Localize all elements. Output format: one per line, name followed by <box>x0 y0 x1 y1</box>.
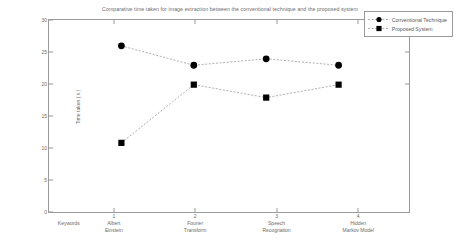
x-category-text-2-line1: Fourier <box>187 220 203 226</box>
x-category-text-2-line2: Transform <box>184 227 207 233</box>
x-category-text-3-line2: Recognation <box>262 227 290 233</box>
y-tick-label-15: 15 <box>41 113 47 119</box>
data-point-conventional-1 <box>118 42 125 49</box>
y-tick-label-25: 25 <box>41 49 47 55</box>
chart-legend: Conventional Technique Proposed System <box>364 11 453 37</box>
data-point-conventional-2 <box>190 62 197 69</box>
legend-marker-square-icon <box>368 24 390 33</box>
data-point-proposed-3 <box>263 95 269 101</box>
series-line-conventional-technique <box>121 46 338 65</box>
plot-area: Time taken ( s ) 0 5 10 15 20 25 30 1 2 … <box>48 19 410 213</box>
x-category-label-speech-recognation: Speech Recognation <box>262 220 290 234</box>
x-category-text-1-line1: Albert <box>107 220 120 226</box>
legend-label-proposed-system: Proposed System <box>392 26 433 32</box>
legend-label-conventional-technique: Conventional Technique <box>392 17 447 23</box>
series-line-proposed-system <box>121 85 338 143</box>
chart-title: Comparative time taken for image extract… <box>80 6 380 12</box>
chart-figure: Comparative time taken for image extract… <box>0 0 457 247</box>
y-tick-label-30: 30 <box>41 17 47 23</box>
x-category-text-1-line2: Einstein <box>105 227 123 233</box>
y-tick-label-0: 0 <box>44 209 47 215</box>
data-point-proposed-1 <box>118 140 124 146</box>
y-tick-label-10: 10 <box>41 145 47 151</box>
legend-item-conventional-technique: Conventional Technique <box>368 15 447 24</box>
data-point-conventional-4 <box>335 62 342 69</box>
series-markers-conventional-technique <box>118 42 342 68</box>
data-point-proposed-2 <box>191 82 197 88</box>
x-category-label-albert-einstein: Albert Einstein <box>105 220 123 234</box>
data-point-proposed-4 <box>336 82 342 88</box>
legend-item-proposed-system: Proposed System <box>368 24 447 33</box>
x-category-text-0: Keywords <box>58 220 80 226</box>
x-category-label-hidden-markov-model: Hidden Markov Model <box>343 220 374 234</box>
x-category-text-4-line2: Markov Model <box>343 227 374 233</box>
y-tick-label-20: 20 <box>41 81 47 87</box>
legend-marker-circle-icon <box>368 15 390 24</box>
y-tick-label-5: 5 <box>44 177 47 183</box>
x-category-label-fourier-transform: Fourier Transform <box>184 220 207 234</box>
x-category-text-4-line1: Hidden <box>350 220 366 226</box>
data-point-conventional-3 <box>263 55 270 62</box>
x-category-label-keywords: Keywords <box>58 220 80 227</box>
x-category-text-3-line1: Speech <box>268 220 285 226</box>
series-layer <box>49 20 411 214</box>
